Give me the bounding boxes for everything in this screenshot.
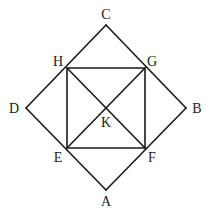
point-label-g: G [147, 54, 157, 69]
point-label-c: C [101, 7, 110, 22]
point-label-k: K [101, 115, 111, 130]
diagram-edges [26, 25, 186, 190]
point-label-h: H [53, 54, 63, 69]
point-label-f: F [148, 150, 156, 165]
point-label-e: E [54, 150, 63, 165]
geometry-diagram: ABCDEFGHK [0, 0, 207, 215]
point-label-b: B [192, 101, 201, 116]
point-label-d: D [9, 101, 19, 116]
point-label-a: A [101, 194, 112, 209]
